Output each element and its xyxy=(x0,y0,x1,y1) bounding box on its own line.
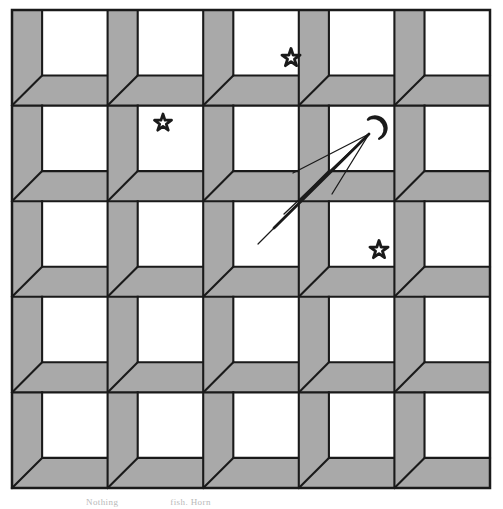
grid-cell xyxy=(203,297,299,393)
cell-inner-face xyxy=(42,10,107,75)
cell-inner-face xyxy=(42,297,107,362)
cell-inner-face xyxy=(329,10,394,75)
grid-cell xyxy=(203,392,299,488)
cell-inner-face xyxy=(425,106,490,171)
grid-cell xyxy=(108,297,204,393)
figure-caption: Nothingfish. Horn xyxy=(86,496,211,508)
grid-cell xyxy=(12,106,108,202)
cell-inner-face xyxy=(138,297,203,362)
cell-inner-face xyxy=(42,392,107,457)
cell-inner-face xyxy=(233,10,298,75)
cell-inner-face xyxy=(42,201,107,266)
grid-cell xyxy=(12,201,108,297)
cell-inner-face xyxy=(138,106,203,171)
cell-inner-face xyxy=(138,10,203,75)
cell-inner-face xyxy=(233,297,298,362)
cell-inner-face xyxy=(425,297,490,362)
grid-cell xyxy=(394,106,490,202)
grid-cell xyxy=(108,10,204,106)
cell-inner-face xyxy=(233,201,298,266)
cell-inner-face xyxy=(42,106,107,171)
figure-root: Nothingfish. Horn xyxy=(0,0,503,509)
cell-inner-face xyxy=(233,106,298,171)
cell-inner-face xyxy=(329,392,394,457)
caption-left-fragment: Nothing xyxy=(86,497,118,507)
caption-right-fragment: fish. Horn xyxy=(170,497,211,507)
grid-cell xyxy=(108,201,204,297)
cell-inner-face xyxy=(425,392,490,457)
cell-inner-face xyxy=(233,392,298,457)
grid-cell xyxy=(203,106,299,202)
grid-cell xyxy=(394,297,490,393)
grid-cell xyxy=(12,392,108,488)
grid-cell xyxy=(299,10,395,106)
grid-cell xyxy=(394,392,490,488)
grid-cell xyxy=(12,297,108,393)
illusion-figure-canvas xyxy=(0,0,503,509)
cell-inner-face xyxy=(138,201,203,266)
grid-cell xyxy=(394,10,490,106)
grid-cell xyxy=(394,201,490,297)
grid-cell xyxy=(108,392,204,488)
cell-inner-face xyxy=(425,10,490,75)
cell-inner-face xyxy=(138,392,203,457)
cell-inner-face xyxy=(425,201,490,266)
box-grid xyxy=(12,10,490,488)
grid-cell xyxy=(203,201,299,297)
cell-inner-face xyxy=(329,297,394,362)
grid-cell xyxy=(12,10,108,106)
grid-cell xyxy=(299,392,395,488)
grid-cell xyxy=(299,297,395,393)
